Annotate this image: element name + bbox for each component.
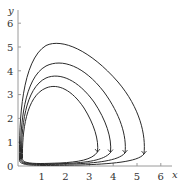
orbits — [19, 43, 144, 165]
y-tick-label: 4 — [7, 66, 13, 77]
y-tick-label: 3 — [7, 89, 13, 100]
x-tick-label: 1 — [39, 171, 45, 182]
x-tick-label: 4 — [110, 171, 116, 182]
phase-plane-chart: 0 1 2 3 4 5 6 1 2 3 4 5 6 x y — [0, 0, 190, 189]
x-tick-label: 2 — [62, 171, 68, 182]
y-tick-label: 5 — [7, 42, 13, 53]
y-tick-label: 0 — [7, 161, 13, 172]
orbit-2 — [20, 63, 125, 164]
y-tick-label: 2 — [7, 113, 13, 124]
x-axis-label: x — [172, 169, 178, 180]
orbit-4 — [22, 86, 97, 163]
y-axis-label: y — [7, 5, 14, 16]
x-tick-label: 6 — [158, 171, 164, 182]
direction-arrows — [95, 149, 147, 154]
y-tick-label: 6 — [7, 18, 13, 29]
x-tick-label: 3 — [86, 171, 92, 182]
y-tick-label: 1 — [7, 137, 13, 148]
x-tick-label: 5 — [134, 171, 140, 182]
